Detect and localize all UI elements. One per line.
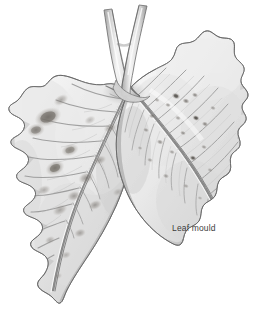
leaf-mould-illustration <box>0 0 259 312</box>
petiole-cross-shadow <box>118 44 130 46</box>
figure-root: Leaf mould <box>0 0 259 312</box>
leaflet-left <box>0 75 140 303</box>
leaflet-right <box>115 31 249 245</box>
